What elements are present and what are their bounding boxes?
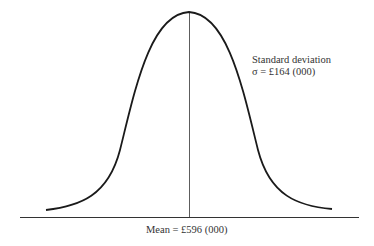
normal-distribution-chart (0, 0, 374, 246)
bell-curve (46, 12, 332, 210)
mean-annotation: Mean = £596 (000) (146, 224, 227, 236)
sd-label-line1: Standard deviation (252, 54, 331, 66)
sd-label-line2: σ = £164 (000) (252, 66, 331, 78)
standard-deviation-annotation: Standard deviation σ = £164 (000) (252, 54, 331, 78)
